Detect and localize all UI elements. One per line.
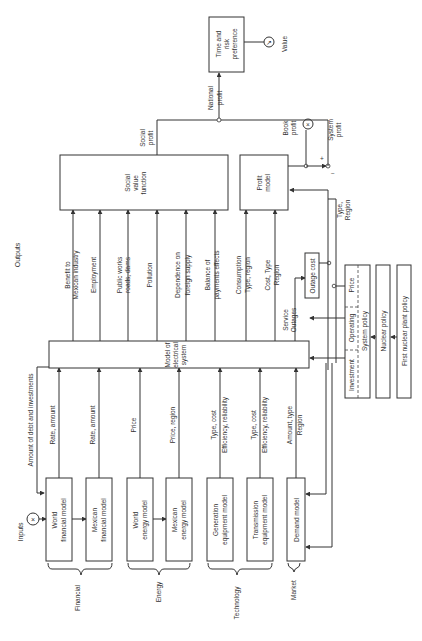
svg-text:risk: risk: [223, 38, 230, 49]
svg-text:Service: Service: [282, 309, 289, 331]
demand-feedback-2: [306, 363, 332, 547]
inputs-label: Inputs: [17, 522, 25, 542]
svg-text:First nuclear plant policy: First nuclear plant policy: [401, 295, 409, 366]
svg-text:equipment model: equipment model: [261, 495, 269, 545]
svg-text:financial model: financial model: [100, 498, 107, 542]
inputs-junction: × Inputs: [17, 513, 46, 542]
group-braces: Financial Energy Technology Market: [48, 563, 300, 619]
svg-text:System policy: System policy: [361, 310, 369, 351]
svg-text:World: World: [51, 511, 58, 528]
svg-text:Region: Region: [344, 199, 352, 220]
svg-text:profit: profit: [147, 131, 155, 146]
svg-text:Balance of: Balance of: [204, 259, 211, 290]
svg-text:Time and: Time and: [215, 30, 222, 57]
svg-text:Cost, Type: Cost, Type: [264, 259, 272, 290]
model-of-electrical-system: Model of electrical system: [49, 341, 309, 368]
svg-text:Energy: Energy: [155, 581, 163, 602]
input-models: World financial model Mexican financial …: [46, 478, 305, 561]
multiply-icon: ×: [31, 516, 35, 523]
svg-text:Outages: Outages: [290, 307, 298, 332]
svg-text:Price: Price: [130, 417, 137, 432]
generation-equipment-model: Generation equipment model: [207, 478, 233, 561]
svg-text:−: −: [331, 170, 335, 177]
value-output-icon: ↗: [266, 39, 272, 46]
svg-text:roads, dams: roads, dams: [124, 256, 131, 293]
svg-text:Operating: Operating: [348, 313, 356, 342]
svg-text:payments effects: payments effects: [213, 250, 221, 300]
svg-text:Generation: Generation: [212, 504, 219, 537]
svg-text:Rate, amount: Rate, amount: [49, 405, 56, 444]
svg-text:Market: Market: [290, 580, 297, 600]
svg-text:profit: profit: [335, 123, 343, 138]
svg-text:Price: Price: [348, 277, 355, 292]
svg-text:Book: Book: [282, 120, 289, 136]
svg-text:Dependence on: Dependence on: [174, 252, 182, 298]
svg-text:profit: profit: [216, 91, 224, 106]
svg-text:Type, cost: Type, cost: [250, 410, 258, 440]
svg-text:Financial: Financial: [74, 584, 81, 611]
world-financial-model: World financial model: [46, 478, 72, 561]
svg-text:National: National: [207, 86, 214, 110]
svg-text:equipment model: equipment model: [221, 495, 229, 545]
first-nuclear-plant-policy: First nuclear plant policy: [391, 265, 411, 398]
outputs-label: Outputs: [14, 242, 22, 267]
national-profit: National profit: [207, 73, 224, 122]
svg-text:Amount of debt and investments: Amount of debt and investments: [27, 373, 34, 467]
svg-text:Employment: Employment: [90, 257, 98, 293]
svg-text:energy model: energy model: [180, 500, 188, 540]
svg-text:Social: Social: [139, 129, 146, 147]
svg-text:Pollution: Pollution: [146, 262, 153, 287]
social-value-function: Social value function Social profit: [60, 120, 228, 210]
svg-text:Benefit to: Benefit to: [64, 261, 71, 289]
mexican-energy-model: Mexican energy model: [166, 478, 192, 561]
svg-text:Region: Region: [296, 414, 304, 435]
svg-text:Social: Social: [124, 174, 131, 192]
svg-text:system: system: [180, 345, 188, 366]
debt-feedback: Amount of debt and investments: [27, 367, 49, 493]
svg-text:+: +: [320, 155, 324, 162]
outage-cost: Outage cost: [305, 253, 331, 298]
svg-text:Model of: Model of: [164, 342, 171, 367]
svg-text:energy model: energy model: [141, 500, 149, 540]
svg-text:Mexican: Mexican: [171, 508, 178, 533]
svg-text:preference: preference: [231, 28, 239, 59]
svg-text:function: function: [140, 171, 147, 194]
svg-text:Type,: Type,: [336, 202, 344, 218]
mexican-financial-model: Mexican financial model: [86, 478, 112, 561]
svg-text:Type, cost: Type, cost: [210, 410, 218, 440]
svg-text:Public works: Public works: [116, 256, 123, 293]
svg-text:Region: Region: [273, 264, 281, 285]
svg-text:Investment: Investment: [348, 359, 355, 391]
svg-text:Amount, type: Amount, type: [286, 405, 294, 444]
svg-text:financial model: financial model: [60, 498, 67, 542]
demand-feedback-1: [306, 363, 326, 494]
svg-text:electrical: electrical: [172, 342, 179, 368]
system-diagram: × Inputs World financial model Mexican f…: [0, 0, 422, 641]
svg-text:profit: profit: [290, 121, 298, 136]
profit-outputs: Consumption Type, region Cost, Type Regi…: [235, 210, 305, 341]
svg-text:Nuclear policy: Nuclear policy: [380, 310, 388, 352]
svg-text:Transmission: Transmission: [252, 500, 259, 539]
svg-text:Efficiency, reliability: Efficiency, reliability: [261, 396, 269, 453]
svg-text:Outage cost: Outage cost: [309, 258, 317, 293]
svg-text:Profit: Profit: [256, 175, 263, 190]
transmission-equipment-model: Transmission equipment model: [247, 478, 273, 561]
svg-text:foreign supply: foreign supply: [184, 254, 192, 295]
svg-text:Mexican industry: Mexican industry: [72, 250, 80, 300]
nuclear-policy: Nuclear policy: [371, 265, 390, 398]
svg-text:Mexican: Mexican: [91, 508, 98, 533]
demand-model: Demand model: [287, 478, 305, 561]
input-flows: Rate, amount Rate, amount Price Price, r…: [49, 368, 304, 478]
book-profit-multiply-icon: ×: [306, 121, 310, 128]
svg-text:Demand model: Demand model: [293, 497, 300, 542]
profit-model: Profit model × Book profit + − System pr…: [219, 119, 343, 370]
svg-text:Consumption: Consumption: [235, 255, 243, 294]
svg-text:Price, region: Price, region: [169, 406, 177, 443]
svg-text:value: value: [132, 175, 139, 191]
svg-text:World: World: [132, 511, 139, 528]
world-energy-model: World energy model: [127, 478, 153, 561]
svg-text:Type, region: Type, region: [244, 257, 252, 293]
svg-text:Value: Value: [281, 36, 288, 53]
social-outputs: Benefit to Mexican industry Employment P…: [64, 210, 221, 341]
svg-text:Technology: Technology: [233, 586, 241, 620]
